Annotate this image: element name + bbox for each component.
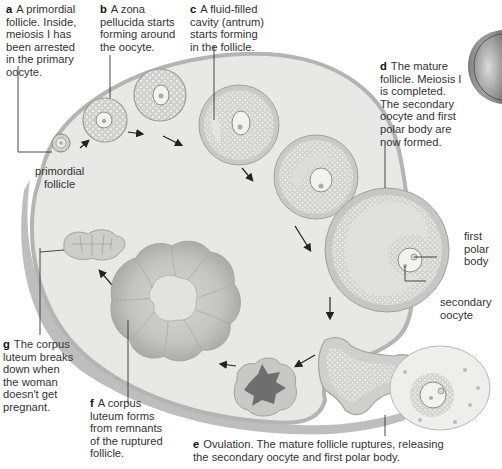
- label-stage-d: dThe mature follicle. Meiosis I is compl…: [380, 60, 461, 148]
- partial-sphere-icon: [468, 30, 502, 104]
- stage-letter-e: e: [193, 438, 199, 450]
- primordial-follicle: [52, 134, 70, 152]
- stage-letter-f: f: [90, 397, 94, 409]
- label-stage-g: gThe corpus luteum breaks down when the …: [3, 338, 73, 414]
- growing-follicle: [134, 69, 186, 121]
- label-stage-b: bA zona pellucida starts forming around …: [100, 3, 175, 53]
- label-first-polar-body: first polar body: [464, 230, 489, 268]
- follicle-zona-pellucida: [83, 98, 127, 142]
- label-stage-c: cA fluid-filled cavity (antrum) starts f…: [190, 3, 264, 53]
- label-primordial-follicle: primordial follicle: [35, 165, 84, 190]
- label-stage-e: eOvulation. The mature follicle ruptures…: [193, 438, 444, 463]
- stage-letter-c: c: [190, 3, 196, 15]
- label-stage-a: aA primordial follicle. Inside, meiosis …: [6, 3, 76, 79]
- label-secondary-oocyte: secondary oocyte: [440, 296, 492, 321]
- early-corpus-luteum: [234, 358, 296, 416]
- stage-letter-g: g: [3, 338, 10, 350]
- stage-letter-b: b: [100, 3, 107, 15]
- mature-follicle: [325, 188, 449, 312]
- follicle-antrum-forming: [199, 85, 279, 165]
- stage-letter-a: a: [6, 3, 12, 15]
- label-stage-f: fA corpus luteum forms from remnants of …: [90, 397, 163, 460]
- stage-letter-d: d: [380, 60, 387, 72]
- ruptured-follicle-ovulation: [319, 338, 490, 430]
